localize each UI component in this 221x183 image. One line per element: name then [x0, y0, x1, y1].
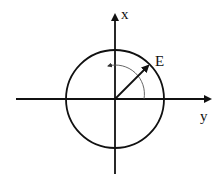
polarization-diagram: x E y — [0, 0, 221, 183]
rotation-arc — [108, 65, 144, 99]
x-axis-label: x — [121, 6, 129, 22]
vector-label: E — [155, 53, 164, 69]
y-axis-label: y — [200, 108, 208, 124]
e-field-vector — [115, 66, 148, 99]
